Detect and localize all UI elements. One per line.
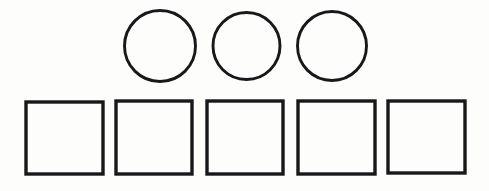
square-3	[207, 101, 283, 174]
squares-row	[26, 101, 465, 174]
square-5	[388, 101, 465, 173]
circle-2	[213, 13, 280, 80]
square-4	[298, 101, 375, 174]
circle-3	[298, 12, 367, 81]
circle-1	[125, 11, 196, 82]
shapes-figure	[0, 0, 489, 191]
square-1	[26, 102, 103, 174]
circles-row	[125, 11, 367, 82]
figure-canvas	[0, 0, 489, 191]
square-2	[116, 101, 192, 174]
